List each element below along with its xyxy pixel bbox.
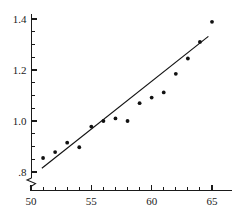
y-tick-label-1p4: 1.4	[13, 13, 27, 25]
data-point	[114, 117, 118, 121]
fitted-trend-line	[42, 36, 209, 168]
data-point	[53, 150, 57, 154]
data-point	[65, 141, 69, 145]
x-tick-label-65: 65	[207, 195, 219, 207]
chart-canvas: .81.01.21.4 50556065	[0, 0, 245, 219]
y-tick-label-1p0: 1.0	[13, 115, 27, 127]
data-point	[126, 119, 130, 123]
y-axis: .81.01.21.4	[13, 13, 37, 191]
scatter-chart: .81.01.21.4 50556065	[0, 0, 245, 219]
data-point	[162, 91, 166, 95]
data-points	[41, 20, 214, 160]
x-tick-label-60: 60	[146, 195, 158, 207]
x-axis: 50556065	[26, 185, 233, 207]
regression-line	[42, 36, 209, 168]
data-point	[150, 96, 154, 100]
data-point	[102, 119, 106, 123]
x-tick-label-55: 55	[86, 195, 98, 207]
data-point	[77, 145, 81, 149]
x-tick-label-50: 50	[26, 195, 38, 207]
data-point	[174, 72, 178, 76]
data-point	[138, 101, 142, 105]
data-point	[210, 20, 214, 24]
data-point	[41, 156, 45, 160]
data-point	[89, 125, 93, 129]
data-point	[186, 57, 190, 61]
y-tick-label-p8: .8	[18, 166, 27, 178]
data-point	[198, 40, 202, 44]
y-tick-label-1p2: 1.2	[13, 64, 27, 76]
